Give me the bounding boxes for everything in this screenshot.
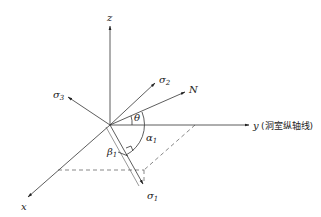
N-vector: [110, 92, 185, 125]
sigma3-vector: [68, 97, 110, 125]
y-axis-label: y: [252, 120, 259, 131]
x-axis: [28, 125, 110, 197]
y-axis-note: (洞室纵轴线): [261, 120, 313, 131]
alpha1-label: α1: [146, 132, 157, 145]
x-axis-label: x: [21, 201, 27, 212]
stress-coordinate-diagram: z y (洞室纵轴线) x σ3 σ2 N σ1 θ α1 β1: [0, 0, 321, 217]
z-axis-label: z: [106, 12, 113, 23]
sigma2-vector: [110, 83, 155, 125]
beta1-label: β1: [106, 146, 117, 159]
sigma1-label: σ1: [147, 190, 158, 203]
theta-label: θ: [134, 112, 140, 123]
sigma3-label: σ3: [53, 89, 65, 102]
N-label: N: [188, 84, 199, 95]
theta-arc: [131, 116, 132, 125]
sigma2-label: σ2: [159, 74, 171, 87]
right-angle-mark: [126, 146, 133, 151]
